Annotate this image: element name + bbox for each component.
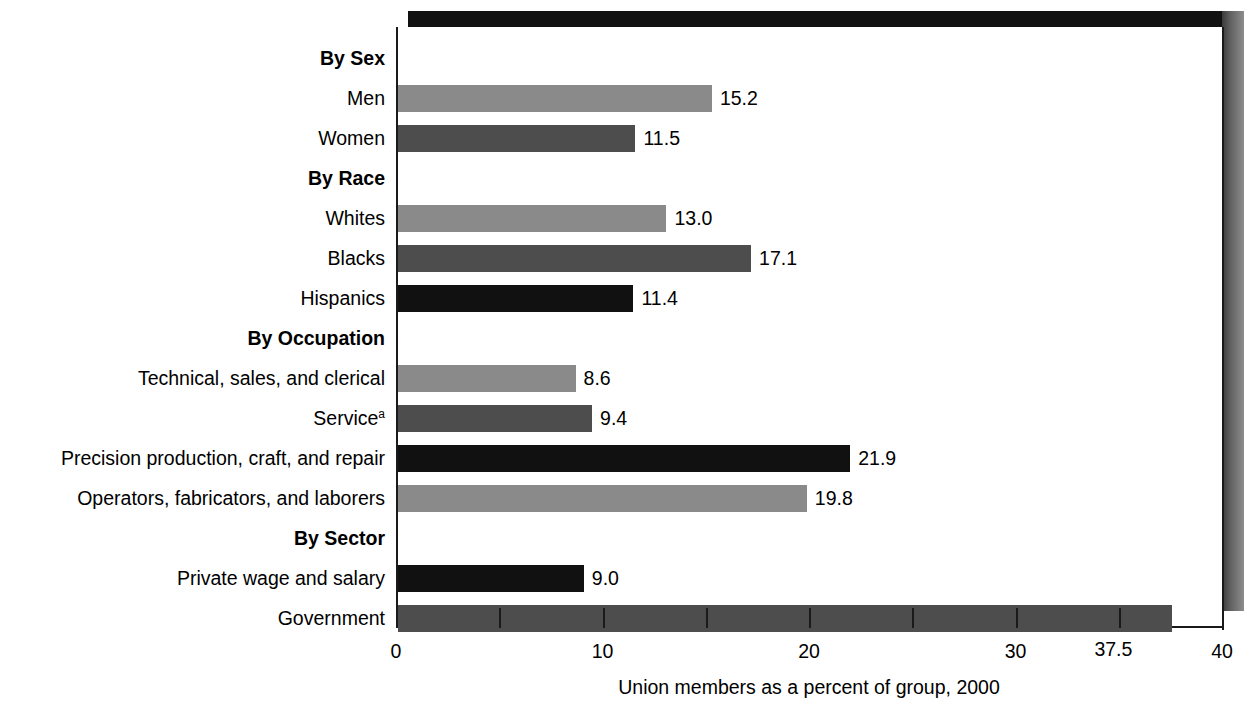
- bar: [398, 485, 807, 512]
- bar: [398, 125, 635, 152]
- chart-bar-row: Government37.5: [0, 598, 1254, 638]
- x-axis-tick: [1016, 608, 1018, 628]
- bar-value-label: 9.4: [600, 405, 627, 432]
- x-axis-tick: [706, 608, 708, 628]
- chart-group-row: By Occupation: [0, 318, 1254, 358]
- bar-value-label: 8.6: [584, 365, 611, 392]
- bar-value-label: 9.0: [592, 565, 619, 592]
- bar-category-label: Hispanics: [300, 278, 385, 318]
- group-heading-label: By Race: [308, 158, 385, 198]
- chart-bar-row: Women11.5: [0, 118, 1254, 158]
- bar-category-label: Operators, fabricators, and laborers: [77, 478, 385, 518]
- x-axis-tick-label: 10: [592, 640, 614, 662]
- chart-bar-row: Operators, fabricators, and laborers19.8: [0, 478, 1254, 518]
- x-axis-tick-label: 20: [798, 640, 820, 662]
- bar: [398, 365, 576, 392]
- chart-bar-row: Blacks17.1: [0, 238, 1254, 278]
- bar: [398, 85, 712, 112]
- chart-bar-row: Whites13.0: [0, 198, 1254, 238]
- chart-group-row: By Sector: [0, 518, 1254, 558]
- bar-category-label: Whites: [325, 198, 385, 238]
- bar-value-label: 19.8: [815, 485, 853, 512]
- chart-bar-row: Private wage and salary9.0: [0, 558, 1254, 598]
- x-axis-tick: [499, 608, 501, 628]
- bar-value-label: 17.1: [759, 245, 797, 272]
- bar-value-label: 21.9: [858, 445, 896, 472]
- x-axis-tick: [912, 608, 914, 628]
- bar-category-label: Servicea: [313, 398, 385, 438]
- group-heading-label: By Occupation: [247, 318, 385, 358]
- chart-canvas: By SexMen15.2Women11.5By RaceWhites13.0B…: [0, 0, 1254, 728]
- plot-shadow-top: [408, 11, 1244, 28]
- bar-category-label: Women: [318, 118, 385, 158]
- bar-category-label: Private wage and salary: [177, 558, 385, 598]
- x-axis-tick-label: 30: [1005, 640, 1027, 662]
- x-axis-tick: [1119, 608, 1121, 628]
- x-axis-tick-label: 40: [1211, 640, 1233, 662]
- bar-value-label: 11.5: [643, 125, 680, 152]
- bar: [398, 245, 751, 272]
- group-heading-label: By Sector: [294, 518, 385, 558]
- bar-value-label: 15.2: [720, 85, 758, 112]
- chart-group-row: By Sex: [0, 38, 1254, 78]
- bar-category-label: Men: [347, 78, 385, 118]
- bar: [398, 405, 592, 432]
- bar: [398, 565, 584, 592]
- bar-category-label: Blacks: [328, 238, 385, 278]
- bar-value-label: 11.4: [641, 285, 678, 312]
- x-axis-tick-label: 0: [391, 640, 402, 662]
- x-axis-title: Union members as a percent of group, 200…: [618, 676, 1000, 699]
- bar: [398, 605, 1172, 632]
- bar: [398, 205, 666, 232]
- bar: [398, 445, 850, 472]
- bar-value-label: 37.5: [1094, 636, 1132, 663]
- bar-category-label: Technical, sales, and clerical: [138, 358, 385, 398]
- chart-bar-row: Servicea9.4: [0, 398, 1254, 438]
- chart-group-row: By Race: [0, 158, 1254, 198]
- chart-bar-row: Precision production, craft, and repair2…: [0, 438, 1254, 478]
- chart-bar-row: Hispanics11.4: [0, 278, 1254, 318]
- bar-value-label: 13.0: [674, 205, 712, 232]
- chart-bar-row: Technical, sales, and clerical8.6: [0, 358, 1254, 398]
- group-heading-label: By Sex: [320, 38, 385, 78]
- bar: [398, 285, 633, 312]
- chart-bar-row: Men15.2: [0, 78, 1254, 118]
- bar-category-label: Precision production, craft, and repair: [61, 438, 385, 478]
- x-axis-tick: [809, 608, 811, 628]
- x-axis-tick: [603, 608, 605, 628]
- bar-category-label: Government: [278, 598, 385, 638]
